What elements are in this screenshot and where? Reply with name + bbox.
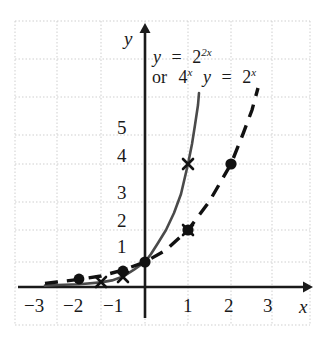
eq2-prefix: or <box>152 67 167 87</box>
x-tick-2: 2 <box>224 296 234 315</box>
x-axis-label: x <box>299 297 307 316</box>
dashed-curve-markers <box>74 158 237 284</box>
eq2-exponent: x <box>188 66 193 78</box>
x-tick-minus3: −3 <box>24 296 44 315</box>
solid-curve-equation-line2: or 4x <box>152 68 192 86</box>
x-axis <box>18 282 313 293</box>
dashed-curve-equation: y = 2x <box>203 68 256 86</box>
eq1-exponent: 2x <box>201 46 211 58</box>
eq1-equals: = <box>166 47 188 67</box>
y-tick-1: 1 <box>117 237 127 256</box>
y-tick-5: 5 <box>117 118 127 137</box>
eq3-exponent: x <box>251 66 256 78</box>
x-tick-minus2: −2 <box>63 296 83 315</box>
math-graph-figure: y x 1 2 3 4 5 −3 −2 −1 1 2 3 y = 22x or … <box>0 0 323 344</box>
x-tick-minus1: −1 <box>103 296 123 315</box>
x-tick-3: 3 <box>263 296 273 315</box>
y-axis-label: y <box>124 29 132 48</box>
y-tick-4: 4 <box>117 146 127 165</box>
eq3-equals: = <box>216 67 238 87</box>
solid-curve-equation-line1: y = 22x <box>153 48 212 66</box>
y-tick-2: 2 <box>117 211 127 230</box>
x-tick-1: 1 <box>183 296 193 315</box>
eq3-lhs: y <box>203 67 211 87</box>
eq1-lhs: y <box>153 47 161 67</box>
eq2-base: 4 <box>172 67 188 87</box>
y-tick-3: 3 <box>117 183 127 202</box>
y-axis <box>140 23 151 318</box>
eq3-base: 2 <box>242 67 251 87</box>
eq1-base: 2 <box>192 47 201 67</box>
